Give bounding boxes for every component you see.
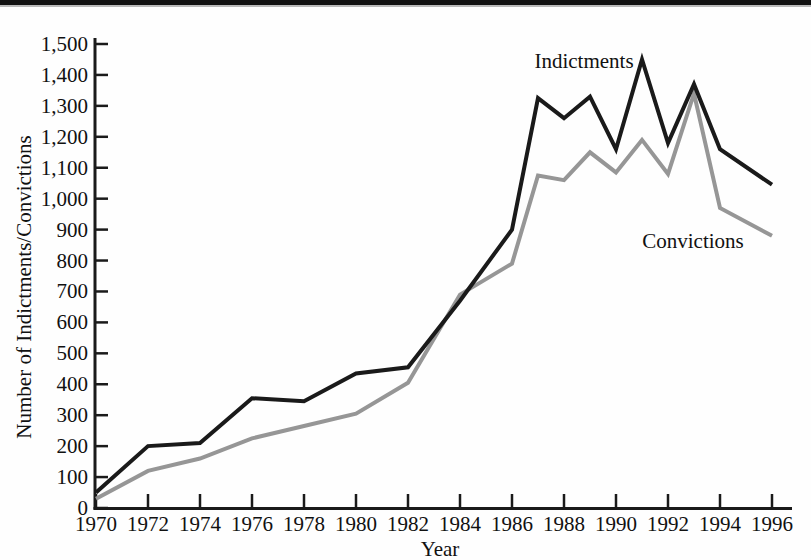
convictions-line <box>96 94 772 499</box>
x-tick-label: 1986 <box>491 512 533 536</box>
y-tick-label: 1,000 <box>41 187 88 211</box>
x-axis-title: Year <box>421 537 460 560</box>
y-tick-label: 100 <box>57 465 89 489</box>
y-tick-label: 1,200 <box>41 125 88 149</box>
y-tick-label: 1,400 <box>41 63 88 87</box>
y-tick-label: 500 <box>57 341 89 365</box>
y-tick-label: 1,100 <box>41 156 88 180</box>
x-tick-label: 1988 <box>543 512 585 536</box>
y-axis-title: Number of Indictments/Convictions <box>12 135 37 438</box>
y-tick-label: 300 <box>57 403 89 427</box>
x-tick-label: 1972 <box>127 512 169 536</box>
x-tick-label: 1976 <box>231 512 273 536</box>
y-tick-label: 400 <box>57 372 89 396</box>
indictments-line <box>96 60 772 493</box>
x-tick-label: 1980 <box>335 512 377 536</box>
x-tick-label: 1990 <box>595 512 637 536</box>
y-tick-label: 200 <box>57 434 89 458</box>
x-tick-label: 1978 <box>283 512 325 536</box>
x-tick-label: 1982 <box>387 512 429 536</box>
x-tick-label: 1984 <box>439 512 482 536</box>
y-tick-label: 600 <box>57 310 89 334</box>
convictions-series-label: Convictions <box>642 229 744 254</box>
x-tick-label: 1996 <box>751 512 793 536</box>
x-tick-label: 1992 <box>647 512 689 536</box>
y-tick-label: 700 <box>57 279 89 303</box>
x-tick-label: 1970 <box>75 512 117 536</box>
y-tick-label: 900 <box>57 218 89 242</box>
y-tick-label: 1,500 <box>41 32 88 56</box>
y-tick-label: 800 <box>57 249 89 273</box>
y-tick-label: 1,300 <box>41 94 88 118</box>
x-tick-label: 1994 <box>699 512 742 536</box>
line-chart: 01002003004005006007008009001,0001,1001,… <box>0 0 811 560</box>
chart-page: 01002003004005006007008009001,0001,1001,… <box>0 0 811 560</box>
indictments-series-label: Indictments <box>534 49 633 74</box>
chart-canvas: 01002003004005006007008009001,0001,1001,… <box>0 0 811 560</box>
x-tick-label: 1974 <box>179 512 222 536</box>
